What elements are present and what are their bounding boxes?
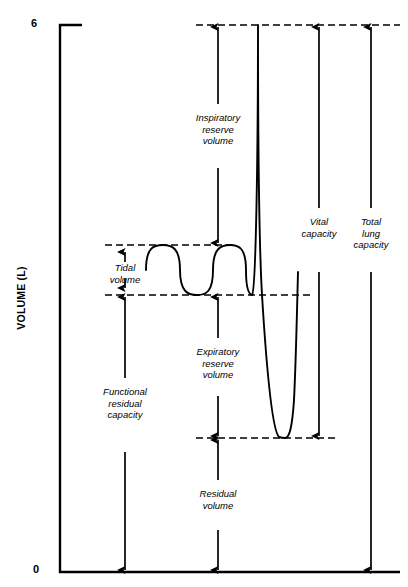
label-tidal-volume: Tidal volume bbox=[95, 262, 155, 285]
y-axis bbox=[60, 25, 82, 572]
figure-page: VOLUME (L) 6 0 bbox=[0, 0, 408, 587]
label-residual-volume: Residual volume bbox=[183, 488, 253, 511]
label-inspiratory-reserve-volume: Inspiratory reserve volume bbox=[178, 112, 258, 147]
label-total-lung-capacity: Total lung capacity bbox=[341, 216, 401, 251]
label-functional-residual-capacity: Functional residual capacity bbox=[86, 386, 164, 421]
label-expiratory-reserve-volume: Expiratory reserve volume bbox=[178, 346, 258, 381]
